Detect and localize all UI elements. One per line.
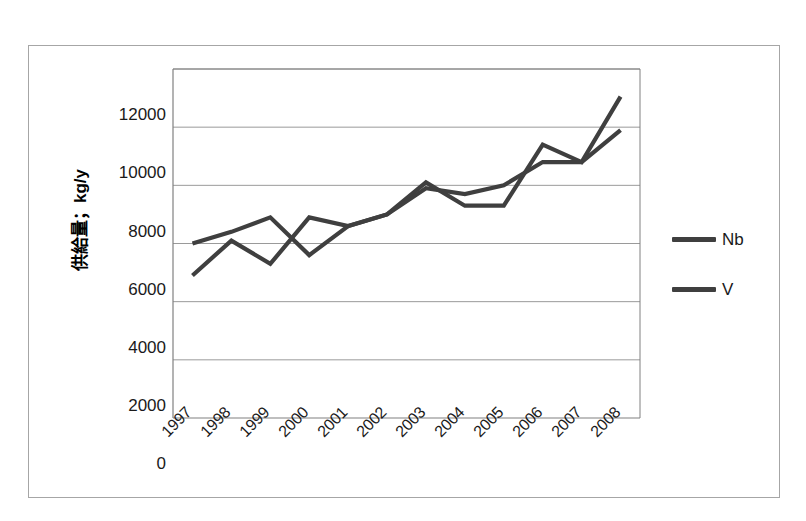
y-tick-4000: 4000 xyxy=(94,339,166,356)
y-tick-2000: 2000 xyxy=(94,397,166,414)
y-axis-title: 供給量；kg/y xyxy=(66,100,88,340)
y-axis-tick-labels: 12000 10000 8000 6000 4000 2000 0 xyxy=(90,45,166,498)
series-lines xyxy=(192,97,620,276)
plot-svg xyxy=(173,69,640,418)
legend-label-v: V xyxy=(722,281,733,298)
legend-swatch-v xyxy=(672,287,716,292)
chart-legend: Nb V xyxy=(672,228,768,314)
y-tick-8000: 8000 xyxy=(94,223,166,240)
y-tick-10000: 10000 xyxy=(94,164,166,181)
y-tick-12000: 12000 xyxy=(94,106,166,123)
plot-area xyxy=(173,69,640,418)
gridlines xyxy=(173,69,640,360)
legend-label-nb: Nb xyxy=(722,231,744,248)
series-line-nb xyxy=(192,97,620,256)
legend-item-nb: Nb xyxy=(672,228,744,250)
y-tick-6000: 6000 xyxy=(94,281,166,298)
legend-item-v: V xyxy=(672,278,733,300)
x-axis-tick-labels: 1997199819992000200120022003200420052006… xyxy=(173,418,640,498)
chart-figure: 供給量；kg/y 12000 10000 8000 6000 4000 2000… xyxy=(0,0,806,521)
y-tick-0: 0 xyxy=(94,455,166,472)
legend-swatch-nb xyxy=(672,237,716,242)
